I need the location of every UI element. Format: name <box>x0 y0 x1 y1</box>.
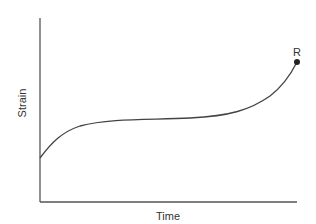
point-label-r: R <box>293 46 301 58</box>
creep-curve <box>40 62 297 158</box>
creep-chart <box>0 0 316 224</box>
x-axis-label: Time <box>156 210 180 222</box>
y-axis-label: Strain <box>16 83 28 123</box>
rupture-point <box>294 59 300 65</box>
